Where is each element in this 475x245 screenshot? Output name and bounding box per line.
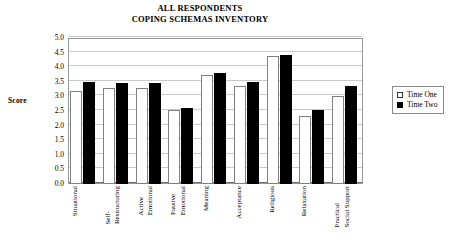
y-axis-title: Score xyxy=(8,96,27,105)
x-tick-label-line: Practical xyxy=(333,203,342,228)
y-tick-4.0: 4.0 xyxy=(55,63,64,71)
y-tick-1.5: 1.5 xyxy=(55,136,64,144)
y-tick-1.0: 1.0 xyxy=(55,151,64,159)
bar-time-two[interactable] xyxy=(181,108,193,184)
y-tick-4.5: 4.5 xyxy=(55,49,64,57)
x-tick-label: Meaning xyxy=(202,186,232,213)
x-axis-tick-labels: SituationalSelf-RestructuringActiveEmoti… xyxy=(68,186,363,245)
bar-time-one[interactable] xyxy=(267,56,279,184)
bar-time-one[interactable] xyxy=(332,96,344,184)
legend-item-label: Time One xyxy=(407,90,437,100)
x-tick-label: Acceptance xyxy=(235,186,265,221)
bar-time-two[interactable] xyxy=(345,86,357,184)
x-tick-label: ActiveEmotional xyxy=(137,186,167,217)
bar-group xyxy=(232,38,265,184)
y-tick-5.0: 5.0 xyxy=(55,34,64,42)
x-tick-label-line: Relaxation xyxy=(300,186,309,216)
bar-time-one[interactable] xyxy=(168,110,180,184)
y-tick-0.0: 0.0 xyxy=(55,180,64,188)
x-tick-label-line: Self- xyxy=(104,211,113,225)
x-tick-label-line: Acceptance xyxy=(235,186,244,219)
bar-group xyxy=(330,38,363,184)
x-tick-label-line: Emotional xyxy=(179,186,188,215)
filled-square-icon xyxy=(397,102,403,108)
x-tick-label: Self-Restructuring xyxy=(104,186,134,226)
chart-title-line-2: COPING SCHEMAS INVENTORY xyxy=(0,14,400,25)
open-square-icon xyxy=(397,92,403,98)
chart-title: ALL RESPONDENTS COPING SCHEMAS INVENTORY xyxy=(0,3,400,25)
bar-time-two[interactable] xyxy=(116,83,128,184)
y-tick-2.5: 2.5 xyxy=(55,107,64,115)
bar-time-one[interactable] xyxy=(201,75,213,184)
bar-time-two[interactable] xyxy=(247,82,259,184)
x-tick-label-line: Social Support xyxy=(343,186,352,227)
x-tick-label: Situational xyxy=(71,186,101,218)
x-tick-label: Religious xyxy=(268,186,298,215)
y-tick-3.5: 3.5 xyxy=(55,78,64,86)
x-tick-label-line: Situational xyxy=(71,186,80,216)
legend-item-label: Time Two xyxy=(407,100,438,110)
bar-group xyxy=(166,38,199,184)
bar-time-one[interactable] xyxy=(103,88,115,184)
gridline-5.0 xyxy=(69,36,362,37)
bar-time-one[interactable] xyxy=(234,86,246,184)
bar-time-two[interactable] xyxy=(214,73,226,184)
bar-time-one[interactable] xyxy=(299,116,311,184)
y-axis-tick-labels: 0.00.51.01.52.02.53.03.54.04.55.0 xyxy=(34,38,64,184)
y-tick-2.0: 2.0 xyxy=(55,122,64,130)
bar-time-two[interactable] xyxy=(149,83,161,184)
bar-time-two[interactable] xyxy=(280,55,292,184)
bar-time-two[interactable] xyxy=(312,110,324,184)
bars-layer xyxy=(68,38,363,184)
x-tick-label: PassiveEmotional xyxy=(169,186,199,217)
bar-group xyxy=(134,38,167,184)
x-tick-label-line: Meaning xyxy=(202,186,211,211)
x-tick-label: Relaxation xyxy=(300,186,330,218)
legend-item[interactable]: Time Two xyxy=(397,100,438,110)
x-tick-label-line: Passive xyxy=(169,194,178,215)
x-tick-label-line: Religious xyxy=(268,186,277,213)
bar-group xyxy=(101,38,134,184)
bar-time-one[interactable] xyxy=(70,91,82,184)
bar-group xyxy=(297,38,330,184)
legend-item[interactable]: Time One xyxy=(397,90,438,100)
y-tick-0.5: 0.5 xyxy=(55,165,64,173)
bar-group xyxy=(199,38,232,184)
y-tick-3.0: 3.0 xyxy=(55,92,64,100)
chart-title-line-1: ALL RESPONDENTS xyxy=(0,3,400,14)
bar-time-two[interactable] xyxy=(83,82,95,184)
x-tick-label-line: Emotional xyxy=(146,186,155,215)
bar-time-one[interactable] xyxy=(136,88,148,184)
x-tick-label: PracticalSocial Support xyxy=(333,186,363,229)
chart-legend: Time OneTime Two xyxy=(392,86,444,114)
bar-group xyxy=(68,38,101,184)
bar-group xyxy=(265,38,298,184)
x-tick-label-line: Restructuring xyxy=(113,186,122,224)
x-tick-label-line: Active xyxy=(137,197,146,216)
